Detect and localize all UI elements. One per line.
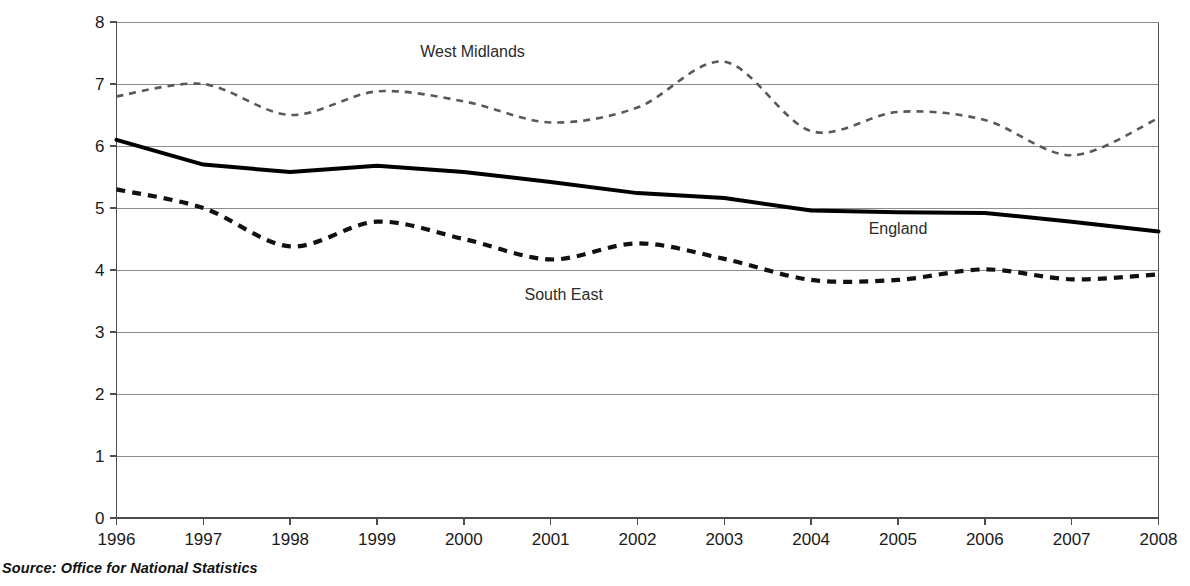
series-label-south-east: South East [525, 286, 604, 303]
y-tick-label: 8 [95, 13, 104, 32]
series-line-west-midlands [117, 61, 1159, 155]
y-tick-label: 4 [95, 261, 104, 280]
data-series [117, 61, 1159, 281]
source-note: Source: Office for National Statistics [2, 560, 258, 576]
y-tick-label: 1 [95, 447, 104, 466]
x-tick-label: 2001 [532, 530, 570, 549]
series-label-england: England [869, 220, 928, 237]
chart-container: 012345678 199619971998199920002001200220… [0, 0, 1190, 586]
axis-tickmarks [110, 22, 1159, 525]
x-tick-label: 1999 [358, 530, 396, 549]
y-axis-labels: 012345678 [95, 13, 104, 528]
series-line-south-east [117, 189, 1159, 281]
y-tick-label: 7 [95, 75, 104, 94]
y-tick-label: 2 [95, 385, 104, 404]
x-tick-label: 2005 [879, 530, 917, 549]
x-tick-label: 1997 [184, 530, 222, 549]
x-axis-labels: 1996199719981999200020012002200320042005… [98, 530, 1178, 549]
y-tick-label: 3 [95, 323, 104, 342]
line-chart: 012345678 199619971998199920002001200220… [0, 0, 1190, 586]
gridlines [117, 22, 1159, 456]
series-label-west-midlands: West Midlands [420, 43, 525, 60]
x-tick-label: 2006 [966, 530, 1004, 549]
series-line-england [117, 140, 1159, 232]
x-tick-label: 2000 [445, 530, 483, 549]
x-tick-label: 2008 [1140, 530, 1178, 549]
x-tick-label: 1998 [271, 530, 309, 549]
x-tick-label: 2007 [1053, 530, 1091, 549]
x-tick-label: 2004 [792, 530, 830, 549]
series-labels: West MidlandsEnglandSouth East [420, 43, 927, 302]
x-tick-label: 2002 [619, 530, 657, 549]
y-tick-label: 0 [95, 509, 104, 528]
y-tick-label: 6 [95, 137, 104, 156]
x-tick-label: 2003 [705, 530, 743, 549]
x-tick-label: 1996 [98, 530, 136, 549]
y-tick-label: 5 [95, 199, 104, 218]
